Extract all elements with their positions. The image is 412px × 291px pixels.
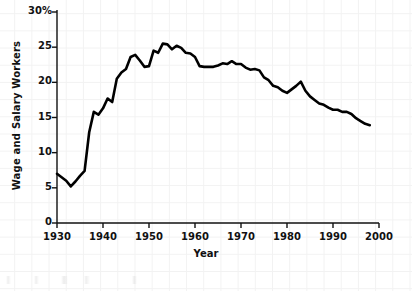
y-axis-ticks bbox=[52, 12, 57, 223]
y-tick-label: 20 bbox=[8, 75, 52, 86]
y-tick-label: 25 bbox=[8, 40, 52, 51]
x-tick-label: 1990 bbox=[310, 231, 356, 242]
x-tick-label: 1970 bbox=[218, 231, 264, 242]
x-tick-label: 1950 bbox=[126, 231, 172, 242]
y-tick-label: 30% bbox=[8, 5, 52, 16]
x-tick-label: 1960 bbox=[172, 231, 218, 242]
y-tick-label: 5 bbox=[8, 181, 52, 192]
x-axis-ticks bbox=[57, 223, 379, 228]
x-axis-label-text: Year bbox=[0, 248, 412, 259]
x-tick-label: 1930 bbox=[34, 231, 80, 242]
x-tick-label: 2000 bbox=[356, 231, 402, 242]
x-tick-label: 1980 bbox=[264, 231, 310, 242]
x-tick-label: 1940 bbox=[80, 231, 126, 242]
chart-figure: Wage and Salary Workers Year 05101520253… bbox=[0, 0, 412, 291]
axis-lines bbox=[57, 10, 379, 223]
page-footer-artifact bbox=[6, 276, 266, 284]
y-tick-label: 0 bbox=[8, 216, 52, 227]
union-membership-series-line bbox=[57, 44, 370, 187]
y-tick-label: 10 bbox=[8, 146, 52, 157]
y-tick-label: 15 bbox=[8, 111, 52, 122]
